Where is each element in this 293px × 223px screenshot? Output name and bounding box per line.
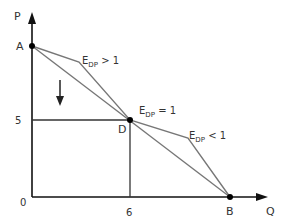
point-b-label: B — [226, 205, 234, 218]
elastic-annotation: EDP > 1 — [82, 55, 119, 69]
origin-label: 0 — [20, 197, 26, 208]
inelastic-annotation: EDP < 1 — [189, 130, 226, 144]
point-a-label: A — [16, 40, 24, 53]
point-d-label: D — [118, 123, 126, 136]
y-axis-label: P — [14, 10, 21, 23]
x-axis-arrow-icon — [256, 193, 268, 201]
down-arrow-icon — [56, 96, 64, 106]
y-tick-label: 5 — [15, 115, 21, 126]
point-d — [127, 117, 133, 123]
point-b — [227, 194, 233, 200]
x-tick-label: 6 — [126, 207, 132, 218]
unit-elastic-annotation: EDP = 1 — [139, 105, 176, 119]
point-a — [29, 43, 35, 49]
y-axis-arrow-icon — [28, 12, 36, 24]
x-axis-label: Q — [266, 205, 275, 218]
price-elasticity-diagram: P Q 0 5 6 A D B EDP > 1 EDP = 1 EDP < 1 — [0, 0, 293, 223]
